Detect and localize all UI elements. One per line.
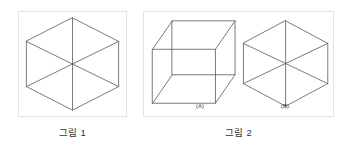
hexagon-figure-b xyxy=(243,21,327,106)
cube-edge-top-left xyxy=(153,21,173,49)
figure-2-caption: 그림 2 xyxy=(143,126,334,139)
cube-front-face xyxy=(153,49,216,103)
cube-edge-bottom-left xyxy=(153,75,173,103)
figure-1-caption: 그림 1 xyxy=(18,126,127,139)
figure-1-drawing xyxy=(19,12,126,116)
cube-edge-bottom-right xyxy=(215,75,235,103)
figure-2-drawing xyxy=(144,12,333,116)
figure-2-sublabel-a: (A) xyxy=(170,102,230,110)
wireframe-cube xyxy=(153,21,235,103)
figure-2-sublabel-b: (B) xyxy=(255,102,315,110)
figure-1-panel xyxy=(18,11,127,117)
figure-sheet: 그림 1 xyxy=(0,0,351,151)
cube-back-face xyxy=(172,21,235,75)
cube-edge-top-right xyxy=(215,21,235,49)
